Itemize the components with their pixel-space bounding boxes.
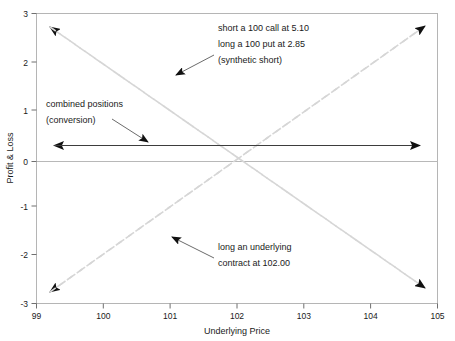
y-tick-label: 3 bbox=[23, 9, 28, 19]
x-tick-label: 99 bbox=[32, 311, 42, 321]
annotation-line: contract at 102.00 bbox=[218, 258, 290, 268]
y-tick-label: -2 bbox=[20, 250, 28, 260]
annotation-line: short a 100 call at 5.10 bbox=[218, 23, 309, 33]
profit-loss-chart: 3 2 1 0 -1 -2 -3 99 100 101 102 103 104 … bbox=[0, 0, 455, 341]
x-tick-label: 100 bbox=[96, 311, 110, 321]
x-tick-label: 101 bbox=[163, 311, 177, 321]
y-tick-label: -1 bbox=[20, 202, 28, 212]
y-tick-label: 1 bbox=[23, 106, 28, 116]
annotation-line: long a 100 put at 2.85 bbox=[218, 39, 305, 49]
y-axis-title: Profit & Loss bbox=[5, 132, 15, 184]
x-axis-title: Underlying Price bbox=[204, 326, 270, 336]
y-tick-label: 2 bbox=[23, 58, 28, 68]
x-tick-label: 102 bbox=[230, 311, 244, 321]
chart-canvas: 3 2 1 0 -1 -2 -3 99 100 101 102 103 104 … bbox=[0, 0, 455, 341]
x-tick-label: 104 bbox=[364, 311, 378, 321]
annotation-line: combined positions bbox=[46, 99, 124, 109]
x-tick-label: 103 bbox=[297, 311, 311, 321]
x-tick-label: 105 bbox=[430, 311, 444, 321]
annotation-line: long an underlying bbox=[218, 242, 292, 252]
chart-background bbox=[0, 0, 455, 341]
annotation-line: (synthetic short) bbox=[218, 55, 282, 65]
y-tick-label: 0 bbox=[23, 157, 28, 167]
annotation-line: (conversion) bbox=[46, 115, 96, 125]
y-tick-label: -3 bbox=[20, 299, 28, 309]
